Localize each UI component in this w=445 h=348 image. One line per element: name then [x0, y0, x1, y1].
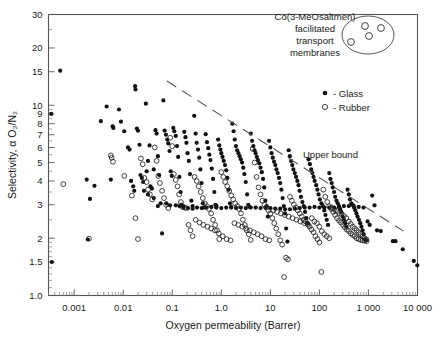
glass-point: [308, 162, 312, 166]
y-axis-ticks: [49, 15, 55, 296]
glass-point: [318, 197, 322, 201]
glass-point: [242, 172, 246, 176]
glass-point: [284, 226, 288, 230]
rubber-point: [323, 194, 328, 199]
glass-point: [277, 176, 281, 180]
x-tick-label: 1.0: [215, 302, 228, 313]
glass-point: [184, 141, 188, 145]
glass-point: [267, 139, 271, 143]
upper-bound-label: Upper bound: [303, 149, 358, 160]
glass-point: [326, 223, 330, 227]
glass-point: [155, 131, 159, 135]
rubber-point: [219, 170, 224, 175]
glass-point: [231, 129, 235, 133]
rubber-point: [225, 184, 230, 189]
glass-point: [325, 218, 329, 222]
rubber-point: [170, 144, 175, 149]
glass-point: [258, 206, 262, 210]
glass-point: [145, 169, 149, 173]
glass-point: [287, 148, 291, 152]
glass-point: [92, 184, 96, 188]
rubber-point: [133, 216, 138, 221]
x-tick-label: 100: [311, 302, 327, 313]
glass-point: [315, 188, 319, 192]
rubber-point: [209, 211, 214, 216]
glass-point: [212, 190, 216, 194]
plot-frame: [49, 15, 418, 296]
glass-point: [216, 137, 220, 141]
glass-point: [327, 171, 331, 175]
glass-point: [183, 135, 187, 139]
rubber-point: [168, 135, 173, 140]
glass-point: [172, 129, 176, 133]
glass-point: [129, 179, 133, 183]
glass-point: [294, 175, 298, 179]
glass-point: [132, 189, 136, 193]
y-tick-label: 1.0: [29, 290, 42, 301]
glass-point: [105, 104, 109, 108]
rubber-point: [140, 162, 145, 167]
glass-point: [266, 214, 270, 218]
x-tick-label: 0.001: [62, 302, 86, 313]
glass-point: [322, 205, 326, 209]
rubber-point: [136, 237, 141, 242]
glass-point: [271, 156, 275, 160]
glass-point: [285, 240, 289, 244]
glass-point: [119, 120, 123, 124]
rubber-point: [252, 160, 257, 165]
glass-point: [412, 259, 416, 263]
glass-point: [281, 196, 285, 200]
glass-point: [288, 154, 292, 158]
rubber-point: [160, 188, 165, 193]
annotation-line-3: transport: [296, 35, 334, 46]
glass-point: [258, 166, 262, 170]
glass-point: [303, 205, 307, 209]
rubber-point: [256, 185, 261, 190]
glass-point: [164, 133, 168, 137]
glass-point: [187, 159, 191, 163]
glass-point: [147, 143, 151, 147]
annotation-line-4: membranes: [290, 47, 340, 58]
y-tick-label: 2: [37, 233, 42, 244]
y-axis-title: Selectivity, α O₂/N₂: [6, 111, 18, 199]
glass-point: [205, 140, 209, 144]
glass-point: [313, 179, 317, 183]
glass-point: [234, 144, 238, 148]
glass-point: [146, 159, 150, 163]
glass-point: [309, 167, 313, 171]
rubber-point: [319, 270, 324, 275]
glass-point: [311, 175, 315, 179]
legend-rubber-marker: [322, 104, 327, 109]
glass-point: [359, 225, 363, 229]
glass-point: [278, 181, 282, 185]
glass-point: [370, 194, 374, 198]
glass-point: [372, 203, 376, 207]
rubber-point: [129, 193, 134, 198]
glass-point: [401, 247, 405, 251]
glass-point: [136, 129, 140, 133]
glass-point: [200, 206, 204, 210]
glass-point: [379, 229, 383, 233]
glass-point: [291, 167, 295, 171]
glass-point: [269, 151, 273, 155]
glass-point: [111, 126, 115, 130]
annotation-circle-4: [348, 39, 355, 46]
rubber-point: [221, 175, 226, 180]
rubber-point: [270, 216, 275, 221]
y-tick-label: 20: [32, 42, 43, 53]
glass-point: [185, 151, 189, 155]
legend-glass-label: - Glass: [333, 88, 363, 99]
glass-point: [288, 207, 292, 211]
glass-point: [175, 144, 179, 148]
rubber-point: [198, 190, 203, 195]
y-tick-label: 15: [32, 66, 43, 77]
glass-point: [188, 172, 192, 176]
rubber-point: [196, 184, 201, 189]
glass-point: [228, 201, 232, 205]
y-tick-label: 6: [37, 142, 42, 153]
glass-point: [218, 147, 222, 151]
rubber-point: [254, 175, 259, 180]
rubber-point: [321, 187, 326, 192]
glass-point: [314, 183, 318, 187]
annotation-ellipse: [342, 16, 394, 54]
